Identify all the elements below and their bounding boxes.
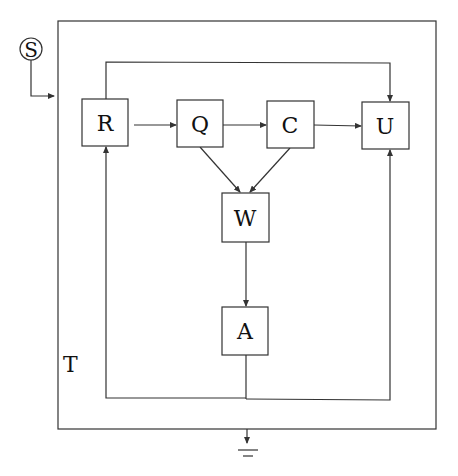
source-s: S: [20, 38, 54, 96]
edge-s-to-t: [31, 60, 54, 96]
node-a: A: [222, 307, 268, 355]
edge-a-to-r: [106, 147, 246, 398]
node-a-label: A: [236, 319, 254, 344]
node-r-label: R: [97, 111, 115, 136]
edge-c-to-u: [314, 125, 361, 126]
container-t-label: T: [63, 352, 78, 377]
edge-c-to-w: [250, 148, 290, 192]
node-q-label: Q: [191, 112, 209, 137]
edge-q-to-w: [200, 147, 240, 192]
node-w: W: [222, 193, 269, 242]
block-diagram: T S R Q C U W: [0, 0, 458, 476]
node-c-label: C: [282, 113, 299, 138]
node-w-label: W: [234, 206, 257, 231]
node-c: C: [267, 101, 314, 148]
edge-r-to-u-top: [106, 62, 390, 101]
node-q: Q: [177, 100, 223, 147]
node-u-label: U: [376, 114, 395, 139]
source-s-label: S: [24, 38, 38, 62]
node-u: U: [362, 102, 409, 149]
ground-icon: [238, 450, 258, 456]
edge-a-to-u: [246, 150, 390, 400]
node-r: R: [82, 99, 128, 146]
